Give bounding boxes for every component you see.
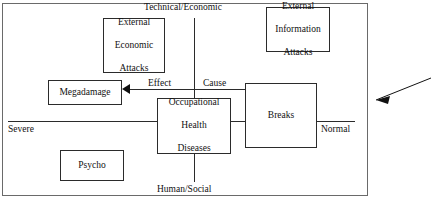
node-label: External Economic Attacks	[111, 17, 158, 75]
node-occupational-health-diseases: Occupational Health Diseases	[157, 98, 231, 154]
node-label-line: Attacks	[273, 47, 322, 59]
node-label: Megadamage	[57, 87, 112, 99]
flow-label-effect: Effect	[147, 78, 172, 88]
node-label-line: Occupational	[167, 97, 222, 109]
node-label-line: Economic	[113, 40, 156, 52]
node-label: Psycho	[76, 160, 107, 172]
node-label-line: Diseases	[167, 143, 222, 155]
node-external-economic-attacks: External Economic Attacks	[103, 18, 165, 73]
node-breaks: Breaks	[245, 83, 317, 148]
node-external-information-attacks: External Information Attacks	[266, 7, 330, 52]
arrowhead-left-icon	[122, 84, 130, 94]
axis-label-severe: Severe	[8, 124, 34, 134]
node-label: Breaks	[266, 110, 296, 122]
connector-breaks-to-megadamage	[128, 89, 245, 90]
node-label-line: External	[273, 1, 322, 13]
node-label-line: Attacks	[113, 63, 156, 75]
node-label: Occupational Health Diseases	[165, 97, 224, 155]
node-psycho: Psycho	[60, 150, 124, 181]
flow-label-cause: Cause	[202, 78, 227, 88]
connector-occupational-health-to-breaks	[231, 121, 245, 122]
diagram-canvas: Technical/Economic Human/Social Severe N…	[0, 0, 431, 204]
node-label: External Information Attacks	[271, 1, 324, 59]
node-label-line: Health	[167, 120, 222, 132]
node-label-line: External	[113, 17, 156, 29]
axis-label-human-social: Human/Social	[157, 184, 211, 194]
node-label-line: Information	[273, 24, 322, 36]
axis-label-technical-economic: Technical/Economic	[144, 2, 222, 12]
node-megadamage: Megadamage	[48, 80, 122, 105]
external-pointer-arrow-icon	[360, 70, 431, 110]
axis-label-normal: Normal	[321, 124, 350, 134]
